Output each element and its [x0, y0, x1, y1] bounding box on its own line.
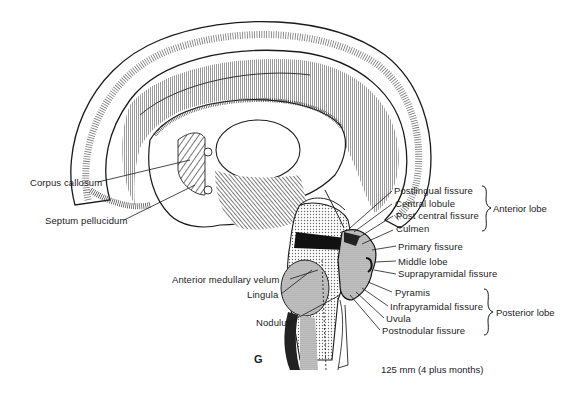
label-postlingual-fissure: Postlingual fissure: [394, 185, 473, 196]
label-corpus-callosum: Corpus callosum: [30, 177, 102, 188]
figure-caption: 125 mm (4 plus months): [381, 364, 483, 375]
brace-posterior-lobe: [484, 289, 493, 335]
label-suprapyramidal-fissure: Suprapyramidal fissure: [398, 268, 497, 279]
label-post-central-fissure: Post central fissure: [396, 210, 479, 221]
label-middle-lobe: Middle lobe: [398, 256, 448, 267]
label-culmen: Culmen: [396, 223, 429, 234]
anatomical-figure: Corpus callosum Septum pellucidum Anteri…: [0, 0, 578, 397]
brainstem-cerebellum: [281, 190, 376, 370]
label-central-lobule: Central lobule: [395, 198, 455, 209]
label-pyramis: Pyramis: [395, 287, 430, 298]
label-infrapyramidal-fissure: Infrapyramidal fissure: [390, 301, 483, 312]
panel-letter: G: [254, 353, 263, 365]
label-primary-fissure: Primary fissure: [398, 241, 463, 252]
label-uvula: Uvula: [386, 313, 411, 324]
label-postnodular-fissure: Postnodular fissure: [382, 325, 465, 336]
label-anterior-medullary-velum: Anterior medullary velum: [172, 274, 279, 285]
brace-anterior-lobe: [482, 186, 491, 231]
brain-sagittal-drawing: [0, 0, 578, 397]
label-septum-pellucidum: Septum pellucidum: [45, 215, 128, 226]
label-lingula: Lingula: [247, 289, 278, 300]
label-anterior-lobe: Anterior lobe: [493, 203, 547, 214]
label-nodulus: Nodulus: [256, 317, 292, 328]
label-posterior-lobe: Posterior lobe: [496, 307, 555, 318]
